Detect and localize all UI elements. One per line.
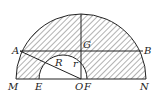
label-F: F [83,81,92,92]
label-O: O [75,81,83,92]
label-N: N [139,81,150,92]
geometry-figure: A B G R r M E O F N [0,0,153,100]
label-E: E [34,81,43,92]
label-A: A [11,45,19,56]
label-G: G [83,39,91,50]
label-B: B [143,45,151,56]
label-R: R [54,57,63,68]
diagram: A B G R r M E O F N [0,0,153,100]
label-M: M [7,81,19,92]
